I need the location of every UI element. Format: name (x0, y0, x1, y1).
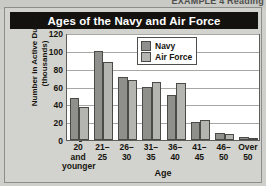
legend-swatch-icon (141, 41, 151, 51)
page-title: Ages of the Navy and Air Force (47, 15, 220, 27)
y-tick-label: 20 (54, 118, 63, 128)
bar-air-force (200, 120, 210, 141)
bar-group (237, 35, 261, 140)
bar-navy (239, 137, 249, 140)
bar-navy (215, 133, 225, 140)
bar-navy (191, 122, 201, 140)
page-header-text: EXAMPLE 4 Reading (172, 0, 264, 6)
legend-label: Air Force (155, 52, 192, 62)
bar-group (91, 35, 115, 140)
y-tick-label: 100 (49, 47, 63, 57)
x-tick-label: Over50 (232, 143, 264, 162)
bar-air-force (249, 138, 259, 140)
bar-navy (94, 51, 104, 140)
x-axis-title: Age (66, 168, 260, 178)
chart-card: Ages of the Navy and Air Force Number in… (4, 7, 262, 183)
chart-screenshot: EXAMPLE 4 Reading Ages of the Navy and A… (0, 0, 266, 186)
legend-item: Air Force (141, 51, 192, 62)
legend-swatch-icon (141, 52, 151, 62)
y-axis-ticks: 020406080100120 (43, 30, 63, 141)
bar-air-force (103, 62, 113, 140)
y-tick-label: 40 (54, 100, 63, 110)
bar-group (213, 35, 237, 140)
bar-air-force (128, 80, 138, 140)
y-tick-label: 80 (54, 65, 63, 75)
bar-air-force (225, 134, 235, 140)
legend-item: Navy (141, 40, 192, 51)
chart-legend: NavyAir Force (137, 37, 197, 65)
bar-navy (70, 98, 80, 140)
y-tick-label: 120 (49, 29, 63, 39)
bar-navy (167, 95, 177, 140)
bar-group (67, 35, 91, 140)
legend-label: Navy (155, 41, 175, 51)
bar-air-force (176, 83, 186, 140)
bar-navy (118, 77, 128, 140)
y-tick-label: 60 (54, 83, 63, 93)
bar-air-force (79, 107, 89, 140)
bar-navy (142, 87, 152, 140)
bar-air-force (152, 82, 162, 140)
